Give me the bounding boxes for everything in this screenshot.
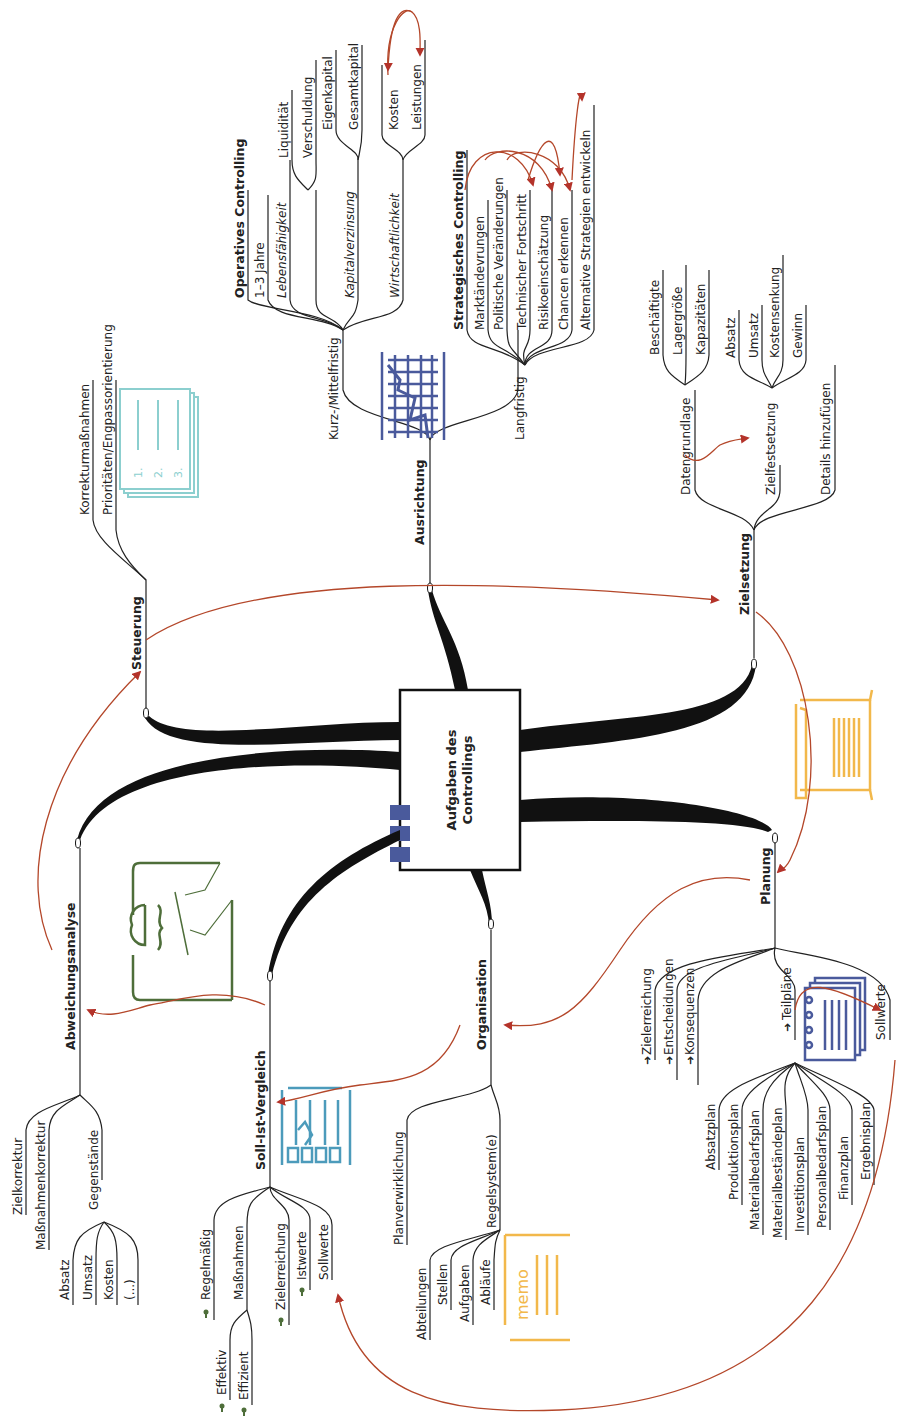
- planung-item-0: Zielerreichung: [640, 968, 654, 1055]
- memo-text: memo: [513, 1269, 532, 1320]
- up-arrow-icon: ➜: [684, 1056, 697, 1065]
- planung-item-2: Konsequenzen: [683, 968, 697, 1055]
- branch-abweichung[interactable]: Abweichungsanalyse Zielkorrektur Maßnahm…: [11, 848, 138, 1305]
- teilplan-0: Absatzplan: [704, 1104, 718, 1170]
- teilplan-6: Finanzplan: [837, 1136, 851, 1200]
- zielerreichung-label: Zielerreichung: [274, 1223, 288, 1310]
- notepad-icon: [796, 690, 872, 800]
- sollwerte-label: Sollwerte: [317, 1224, 331, 1280]
- down-arrow-icon: ➜: [641, 1056, 654, 1065]
- langfristig-label: Langfristig: [513, 376, 527, 440]
- mind-map-canvas: Aufgaben des Controllings: [0, 0, 918, 1420]
- kapitalverzinsung-label: Kapitalverzinsung: [343, 191, 357, 298]
- branch-ausrichtung[interactable]: Ausrichtung: [343, 330, 518, 583]
- istwerte-label: Istwerte: [295, 1231, 309, 1280]
- teilplan-2: Materialbedarfsplan: [748, 1110, 762, 1230]
- massnahmen-label: Maßnahmen: [232, 1225, 246, 1300]
- zielfestsetzung-label: Zielfestsetzung: [764, 403, 778, 495]
- datengrundlage-label: Datengrundlage: [679, 398, 693, 495]
- teilplan-3: Materialbeständeplan: [771, 1107, 785, 1238]
- abweichung-label: Abweichungsanalyse: [63, 902, 78, 1050]
- teilplaene-label: Teilpläne: [780, 967, 794, 1021]
- regelsystem-label: Regelsystem(e): [485, 1134, 499, 1228]
- lang-item-4: Chancen erkennen: [557, 217, 571, 330]
- down-arrow-icon: ➜: [663, 1056, 676, 1065]
- branch-steuerung[interactable]: Steuerung Korrekturmaßnahmen Prioritäten…: [78, 324, 146, 708]
- effizient-label: Effizient: [237, 1351, 251, 1400]
- korrekturmassnahmen-label: Korrekturmaßnahmen: [78, 384, 92, 515]
- list-number-2: 2.: [152, 468, 165, 479]
- planung-item-1: Entscheidungen: [662, 959, 676, 1056]
- teilplan-4: Investitionsplan: [793, 1137, 807, 1232]
- lang-item-3: Risikoeinschätzung: [537, 215, 551, 330]
- prioritaeten-label: Prioritäten/Engpassorientierung: [101, 324, 115, 515]
- lang-item-0: Marktändevrungen: [473, 216, 487, 330]
- handwriting-note-icon: [131, 863, 232, 1000]
- stellen-label: Stellen: [436, 1264, 450, 1305]
- jahre-label: 1–3 Jahre: [253, 242, 267, 298]
- branch-langfristig[interactable]: Langfristig Strategisches Controlling Ma…: [451, 95, 594, 440]
- gegenstand-3: (...): [123, 1279, 137, 1300]
- zielkorrektur-label: Zielkorrektur: [11, 1138, 25, 1215]
- kurzfristig-label: Kurz-/Mittelfristig: [327, 337, 341, 440]
- massnahmenkorrektur-label: Maßnahmenkorrektur: [34, 1121, 48, 1250]
- center-node[interactable]: Aufgaben des Controllings: [390, 690, 520, 870]
- strategisches-controlling-title: Strategisches Controlling: [451, 151, 466, 330]
- center-title-line2: Controllings: [460, 735, 475, 824]
- kapazitaeten-label: Kapazitäten: [694, 284, 708, 355]
- gesamtkapital-label: Gesamtkapital: [347, 43, 361, 130]
- lang-item-5: Alternative Strategien entwickeln: [579, 130, 593, 330]
- umsatz-label: Umsatz: [747, 313, 761, 358]
- gegenstaende-label: Gegenstände: [87, 1130, 101, 1210]
- list-number-3: 3.: [172, 468, 185, 479]
- planung-label: Planung: [758, 847, 773, 905]
- ablaeufe-label: Abläufe: [479, 1259, 493, 1305]
- verschuldung-label: Verschuldung: [301, 77, 315, 158]
- zielsetzung-label: Zielsetzung: [737, 533, 752, 615]
- lang-item-1: Politische Veränderungen: [492, 177, 506, 330]
- organisation-label: Organisation: [474, 959, 489, 1050]
- list-number-1: 1.: [132, 468, 145, 479]
- details-label[interactable]: Details hinzufügen: [819, 383, 833, 495]
- gegenstand-2: Kosten: [102, 1259, 116, 1300]
- effektiv-label: Effektiv: [215, 1350, 229, 1395]
- lang-item-2: Technischer Fortschritt: [515, 194, 529, 331]
- eigenkapital-label: Eigenkapital: [321, 56, 335, 130]
- liquiditaet-label: Liquidität: [277, 101, 291, 158]
- kosten-label: Kosten: [387, 89, 401, 130]
- teilplan-1: Produktionsplan: [727, 1104, 741, 1200]
- teilplan-5: Personalbedarfsplan: [815, 1106, 829, 1228]
- down-arrow-icon: ➜: [781, 1023, 794, 1032]
- branch-sollist[interactable]: Soll-Ist-Vergleich Regelmäßig Maßnahmen …: [199, 981, 332, 1416]
- abteilungen-label: Abteilungen: [415, 1268, 429, 1340]
- aufgaben-label: Aufgaben: [458, 1264, 472, 1322]
- kostensenkung-label: Kostensenkung: [768, 267, 782, 358]
- branch-zielsetzung[interactable]: Zielsetzung Datengrundlage Zielfestsetzu…: [648, 255, 835, 658]
- branch-organisation[interactable]: Organisation Planverwirklichung Regelsys…: [392, 930, 500, 1340]
- regelmaessig-label: Regelmäßig: [199, 1229, 213, 1300]
- ausrichtung-label: Ausrichtung: [412, 460, 427, 546]
- planverwirklichung-label: Planverwirklichung: [392, 1131, 406, 1245]
- sollwerte-label: Sollwerte: [874, 984, 888, 1040]
- teilplan-7: Ergebnisplan: [859, 1102, 873, 1180]
- steuerung-label: Steuerung: [129, 596, 144, 670]
- gegenstand-1: Umsatz: [81, 1255, 95, 1300]
- gegenstand-0: Absatz: [58, 1260, 72, 1300]
- memo-icon: memo: [505, 1235, 570, 1340]
- wirtschaftlichkeit-label: Wirtschaftlichkeit: [388, 192, 402, 298]
- gewinn-label: Gewinn: [791, 313, 805, 358]
- center-title-line1: Aufgaben des: [444, 729, 459, 830]
- sollist-label: Soll-Ist-Vergleich: [253, 1050, 268, 1170]
- leistungen-label: Leistungen: [410, 64, 424, 130]
- beschaeftigte-label: Beschäftigte: [648, 280, 662, 355]
- lagergroesse-label: Lagergröße: [671, 287, 685, 355]
- operatives-controlling-title: Operatives Controlling: [232, 139, 247, 298]
- numbered-list-icon: 1. 2. 3.: [120, 389, 198, 497]
- absatz-label: Absatz: [724, 318, 738, 358]
- lebensfaehigkeit-label: Lebensfähigkeit: [275, 201, 289, 298]
